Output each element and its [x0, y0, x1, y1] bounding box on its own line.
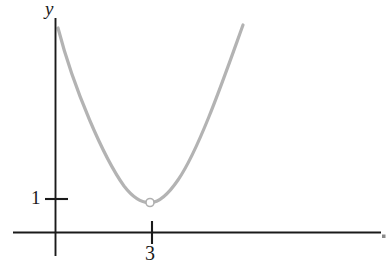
x-tick-label-3: 3	[145, 243, 155, 263]
open-circle-hole-marker	[146, 199, 154, 207]
parabola-curve	[58, 25, 243, 203]
y-tick-label-1: 1	[31, 188, 41, 207]
graph-canvas	[0, 0, 388, 266]
y-axis-label: y	[45, 0, 53, 18]
axis-end-mark	[382, 235, 386, 239]
graph-figure: y 1 3	[0, 0, 388, 266]
